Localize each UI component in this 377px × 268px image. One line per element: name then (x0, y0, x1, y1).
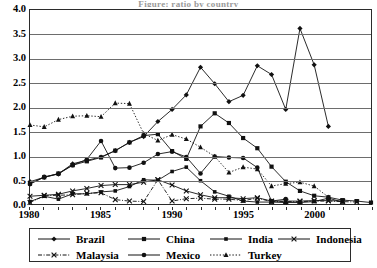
data-point (255, 63, 260, 68)
chart-legend: BrazilChinaIndiaIndonesiaMalaysiaMexicoT… (29, 228, 351, 262)
data-point (213, 111, 217, 115)
y-axis-tick: 0.5 (0, 176, 26, 186)
data-point (255, 146, 259, 150)
axis-tickmark (186, 207, 187, 210)
legend-item-mexico[interactable]: Mexico (126, 246, 200, 263)
series-china (28, 111, 373, 204)
data-point (198, 171, 203, 176)
legend-marker (142, 236, 146, 240)
legend-marker-icon (36, 232, 72, 246)
series-mexico (28, 139, 288, 204)
y-axis-tick: 3.0 (0, 53, 26, 63)
axis-tickmark (301, 207, 302, 210)
legend-label: India (244, 232, 273, 246)
data-point (170, 199, 175, 204)
legend-label: Brazil (72, 232, 105, 246)
legend-label: China (162, 232, 195, 246)
data-point (42, 175, 47, 180)
axis-tickmark (172, 207, 173, 210)
legend-marker-icon (126, 232, 162, 246)
y-axis-tick: 3.5 (0, 29, 26, 39)
axis-tickmark (129, 207, 130, 210)
legend-item-turkey[interactable]: Turkey (208, 246, 282, 263)
legend-marker-icon (208, 232, 244, 246)
data-point (198, 124, 202, 128)
y-axis-tick: 2.0 (0, 102, 26, 112)
legend-label: Mexico (162, 248, 200, 262)
y-axis-tick: 2.5 (0, 78, 26, 88)
y-axis-tick-labels: 4.03.53.02.52.01.51.00.50.0 (0, 0, 27, 268)
data-point (312, 62, 317, 67)
gridline (30, 108, 371, 109)
data-point (297, 26, 302, 31)
data-point (127, 165, 132, 170)
gridline (30, 83, 371, 84)
legend-label: Malaysia (72, 248, 119, 262)
axis-tickmark (158, 207, 159, 210)
data-point (269, 165, 273, 169)
axis-tickmark (215, 207, 216, 210)
chart-title-fragment: Figure: ratio by country (0, 0, 377, 7)
series-line (30, 167, 343, 202)
x-axis-tick-labels: 19801985199019952000 (0, 207, 377, 221)
legend-marker (224, 252, 229, 257)
y-axis-tick: 1.0 (0, 151, 26, 161)
data-point (113, 149, 117, 153)
x-axis-tick: 1985 (90, 209, 111, 221)
data-point (113, 100, 118, 105)
data-point (269, 199, 274, 204)
data-point (141, 160, 146, 165)
axis-tickmark (329, 207, 330, 210)
series-line (30, 180, 357, 203)
data-point (241, 93, 246, 98)
axis-tickmark (201, 207, 202, 210)
axis-tickmark (100, 207, 101, 210)
gridline (30, 59, 371, 60)
data-point (113, 189, 117, 193)
data-point (70, 113, 75, 118)
legend-item-india[interactable]: India (208, 230, 273, 247)
series-brazil (27, 26, 331, 184)
gridline (30, 157, 371, 158)
y-axis-tick: 1.5 (0, 127, 26, 137)
data-point (326, 124, 331, 129)
data-point (99, 114, 104, 119)
axis-tickmark (243, 207, 244, 210)
series-turkey (28, 100, 331, 199)
data-point (28, 182, 33, 187)
data-point (113, 166, 118, 171)
legend-item-indonesia[interactable]: Indonesia (276, 230, 362, 247)
y-axis-tick: 4.0 (0, 4, 26, 14)
axis-tickmark (29, 207, 30, 210)
data-point (127, 140, 131, 144)
gridline (30, 181, 371, 182)
legend-row: BrazilChinaIndiaIndonesia (30, 230, 350, 247)
legend-marker (51, 236, 56, 241)
data-point (155, 138, 160, 143)
data-point (269, 72, 274, 77)
data-point (85, 157, 90, 162)
legend-item-china[interactable]: China (126, 230, 195, 247)
x-axis-tick: 2000 (304, 209, 325, 221)
legend-item-brazil[interactable]: Brazil (36, 230, 105, 247)
data-point (185, 165, 189, 169)
legend-marker-icon (208, 248, 244, 262)
axis-tickmark (315, 207, 316, 210)
data-point (283, 197, 288, 202)
axis-tickmark (343, 207, 344, 210)
axis-tickmark (58, 207, 59, 210)
legend-marker-icon (36, 248, 72, 262)
legend-item-malaysia[interactable]: Malaysia (36, 246, 119, 263)
x-axis-tick: 1980 (19, 209, 40, 221)
axis-tickmark (229, 207, 230, 210)
axis-tickmark (72, 207, 73, 210)
data-point (241, 136, 245, 140)
data-point (213, 190, 217, 194)
legend-row: MalaysiaMexicoTurkey (30, 246, 350, 263)
data-point (170, 149, 175, 154)
legend-label: Turkey (244, 248, 282, 262)
data-point (312, 194, 316, 198)
gridline (30, 34, 371, 35)
data-point (298, 189, 302, 193)
x-axis-tick: 1990 (161, 209, 182, 221)
